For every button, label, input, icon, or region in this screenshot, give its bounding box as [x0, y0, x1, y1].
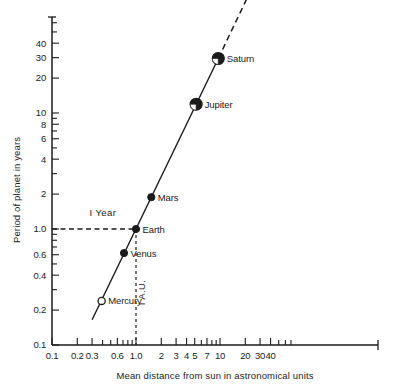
- annotation-one-year: I Year: [90, 207, 117, 218]
- x-tick-label: 0.3: [86, 350, 99, 361]
- x-axis-title: Mean distance from sun in astronomical u…: [116, 370, 313, 381]
- y-tick-label: 0.4: [33, 270, 46, 281]
- y-tick-label: 4: [41, 154, 46, 165]
- fit-line-dashed-extension: [218, 0, 248, 59]
- x-tick-label: 1.0: [130, 350, 143, 361]
- data-point-jupiter: [190, 98, 202, 110]
- data-point-earth: [132, 225, 139, 232]
- y-tick-label: 8: [41, 119, 46, 130]
- x-tick-label: 0.1: [46, 350, 59, 361]
- point-label-mars: Mars: [158, 192, 179, 203]
- data-point-labels: MercuryVenusEarthMarsJupiterSaturn: [108, 53, 254, 306]
- trend-line: [92, 0, 249, 320]
- y-tick-label: 2: [41, 188, 46, 199]
- y-axis-title: Period of planet in years: [11, 137, 22, 243]
- x-tick-label: 30: [255, 350, 265, 361]
- y-tick-label: 20: [36, 72, 46, 83]
- data-point-venus: [120, 249, 127, 256]
- log-log-plot-figure: 0.10.20.40.61.0246810203040 0.10.20.30.6…: [0, 0, 393, 389]
- data-point-mercury: [98, 297, 105, 304]
- fit-line-solid: [92, 59, 218, 320]
- x-tick-label: 0.2: [71, 350, 84, 361]
- y-tick-label: 30: [36, 52, 46, 63]
- x-tick-label: 5: [192, 350, 197, 361]
- y-tick-label: 40: [36, 38, 46, 49]
- x-tick-label: 20: [240, 350, 250, 361]
- point-label-earth: Earth: [143, 224, 165, 235]
- x-tick-label: 40: [265, 350, 275, 361]
- y-tick-label: 10: [36, 107, 46, 118]
- x-tick-label: 10: [215, 350, 225, 361]
- point-label-jupiter: Jupiter: [205, 99, 233, 110]
- y-tick-label: 6: [41, 133, 46, 144]
- tick-marks: [52, 23, 291, 345]
- chart-canvas: 0.10.20.40.61.0246810203040 0.10.20.30.6…: [0, 0, 393, 389]
- y-tick-label: 0.6: [33, 249, 46, 260]
- x-tick-labels: 0.10.20.30.61.02345710203040: [46, 350, 276, 361]
- point-label-venus: Venus: [131, 248, 157, 259]
- data-point-saturn: [212, 53, 224, 65]
- annotation-one-au: I A.U.: [136, 280, 147, 306]
- y-tick-label: 0.2: [33, 304, 46, 315]
- x-tick-label: 4: [184, 350, 189, 361]
- x-tick-label: 0.6: [111, 350, 124, 361]
- point-label-saturn: Saturn: [227, 53, 254, 64]
- y-tick-label: 0.1: [33, 339, 46, 350]
- guide-lines: [52, 229, 136, 345]
- y-tick-label: 1.0: [33, 223, 46, 234]
- x-tick-label: 3: [174, 350, 179, 361]
- x-tick-label: 7: [204, 350, 209, 361]
- x-tick-label: 2: [159, 350, 164, 361]
- data-point-mars: [148, 194, 155, 201]
- y-tick-labels: 0.10.20.40.61.0246810203040: [33, 38, 46, 351]
